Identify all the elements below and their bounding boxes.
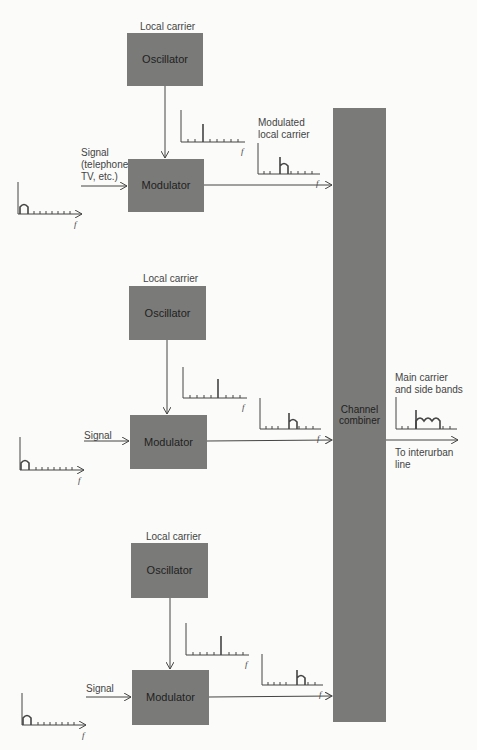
output-spectrum — [396, 397, 457, 429]
ch3-carrier-spectrum: f — [186, 623, 249, 669]
svg-text:f: f — [317, 433, 321, 443]
ch1-signal-spectrum: f — [18, 182, 82, 229]
ch1-carrier-spectrum: f — [181, 110, 245, 156]
ch3-modulator-to-combiner-arrow — [209, 696, 332, 697]
svg-text:f: f — [319, 689, 323, 699]
svg-text:f: f — [74, 219, 78, 229]
svg-text:f: f — [78, 475, 82, 485]
diagram-connectors: f f f f f f — [0, 0, 477, 750]
ch2-signal-spectrum: f — [20, 437, 84, 485]
ch3-signal-spectrum: f — [22, 693, 86, 740]
svg-text:f: f — [241, 146, 245, 156]
svg-text:f: f — [82, 730, 86, 740]
ch2-carrier-spectrum: f — [183, 367, 247, 412]
svg-text:f: f — [316, 178, 320, 188]
ch1-modulated-spectrum: f — [258, 143, 320, 188]
svg-text:f: f — [245, 659, 249, 669]
ch3-modulated-spectrum: f — [262, 654, 323, 699]
svg-text:f: f — [242, 402, 246, 412]
ch2-modulator-to-combiner-arrow — [207, 440, 332, 441]
ch2-modulated-spectrum: f — [260, 398, 321, 443]
